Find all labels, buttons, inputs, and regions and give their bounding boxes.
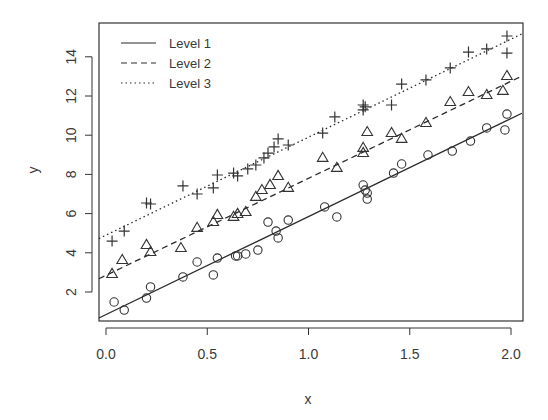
x-tick-label: 1.5: [400, 346, 420, 362]
scatter-chart: 0.00.51.01.52.0 2468101214 x y Level 1 L…: [0, 0, 548, 420]
plus-marker: [463, 47, 474, 58]
plus-marker: [420, 74, 431, 85]
legend-label-level-2: Level 2: [169, 56, 211, 71]
plus-marker: [358, 104, 369, 115]
triangle-marker: [332, 162, 343, 171]
x-tick-label: 2.0: [501, 346, 521, 362]
x-tick-label: 1.0: [299, 346, 319, 362]
circle-marker: [254, 246, 262, 254]
plus-marker: [396, 79, 407, 90]
triangle-marker: [251, 191, 262, 200]
circle-marker: [284, 216, 292, 224]
plus-marker: [119, 226, 130, 237]
y-axis: 2468101214: [63, 49, 92, 296]
circle-marker: [333, 213, 341, 221]
plus-marker: [208, 182, 219, 193]
triangle-marker: [208, 216, 219, 225]
y-tick-label: 4: [63, 249, 79, 257]
y-tick-label: 10: [63, 127, 79, 143]
circle-marker: [110, 298, 118, 306]
circle-marker: [146, 283, 154, 291]
plus-marker: [386, 100, 397, 111]
circle-marker: [231, 252, 239, 260]
plus-marker: [501, 31, 512, 42]
triangle-marker: [445, 96, 456, 105]
y-axis-label: y: [25, 167, 41, 174]
plus-marker: [317, 128, 328, 139]
fit-line-level-3: [99, 34, 522, 239]
triangle-marker: [463, 86, 474, 95]
circle-marker: [193, 258, 201, 266]
fit-line-level-2: [99, 76, 522, 279]
plus-marker: [177, 180, 188, 191]
legend-label-level-1: Level 1: [169, 36, 211, 51]
circle-marker: [233, 252, 241, 260]
y-tick-label: 8: [63, 170, 79, 178]
circle-marker: [264, 218, 272, 226]
triangle-marker: [502, 70, 513, 79]
circle-marker: [397, 160, 405, 168]
regression-lines: [99, 34, 522, 318]
plus-marker: [107, 236, 118, 247]
circle-marker: [448, 147, 456, 155]
plot-box: [99, 23, 523, 321]
legend-label-level-3: Level 3: [169, 76, 211, 91]
circle-marker: [501, 126, 509, 134]
y-tick-label: 14: [63, 49, 79, 65]
triangle-marker: [145, 246, 156, 255]
triangle-marker: [362, 126, 373, 135]
circle-marker: [503, 110, 511, 118]
plus-marker: [283, 140, 294, 151]
data-points: [107, 31, 513, 315]
plus-marker: [329, 111, 340, 122]
x-axis: 0.00.51.01.52.0: [96, 328, 521, 362]
x-tick-label: 0.5: [198, 346, 218, 362]
chart-canvas: 0.00.51.01.52.0 2468101214 x y Level 1 L…: [0, 0, 548, 420]
fit-line-level-1: [99, 113, 522, 318]
y-tick-label: 6: [63, 209, 79, 217]
triangle-marker: [386, 127, 397, 136]
plus-marker: [481, 43, 492, 54]
y-tick-label: 12: [63, 88, 79, 104]
triangle-marker: [176, 242, 187, 251]
plus-marker: [501, 48, 512, 59]
x-tick-label: 0.0: [96, 346, 116, 362]
series-level-3: [107, 31, 513, 247]
y-tick-label: 2: [63, 288, 79, 296]
circle-marker: [363, 195, 371, 203]
plus-marker: [445, 62, 456, 73]
circle-marker: [120, 306, 128, 314]
circle-marker: [209, 271, 217, 279]
legend: Level 1 Level 2 Level 3: [121, 36, 211, 91]
triangle-marker: [265, 179, 276, 188]
circle-marker: [359, 181, 367, 189]
plus-marker: [192, 189, 203, 200]
circle-marker: [424, 151, 432, 159]
triangle-marker: [317, 152, 328, 161]
triangle-marker: [117, 254, 128, 263]
plus-marker: [360, 101, 371, 112]
triangle-marker: [273, 170, 284, 179]
triangle-marker: [396, 133, 407, 142]
circle-marker: [242, 250, 250, 258]
x-axis-label: x: [305, 391, 312, 407]
